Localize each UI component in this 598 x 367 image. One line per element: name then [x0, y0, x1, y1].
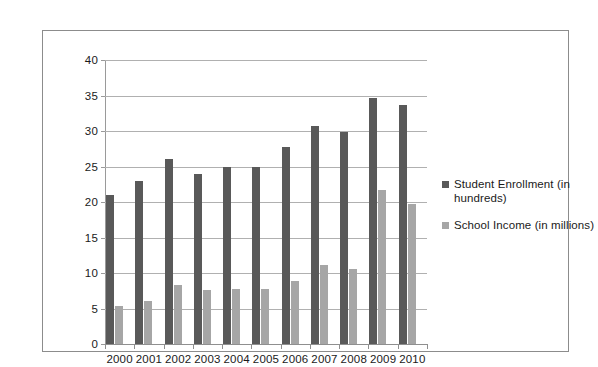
category-axis-tick [368, 344, 369, 349]
category-axis-tick [251, 344, 252, 349]
bar[interactable] [115, 306, 123, 344]
plot-area: 0510152025303540 [105, 60, 427, 344]
bar-group [134, 60, 163, 344]
bar[interactable] [349, 269, 357, 344]
category-axis-label: 2008 [341, 353, 367, 365]
bar-group [310, 60, 339, 344]
bar-group [368, 60, 397, 344]
bar[interactable] [232, 289, 240, 344]
bar[interactable] [135, 181, 143, 344]
bar[interactable] [369, 98, 377, 344]
chart-frame: 0510152025303540 20002001200220032004200… [42, 30, 569, 352]
bar[interactable] [282, 147, 290, 344]
chart-legend: Student Enrollment (in hundreds)School I… [442, 177, 598, 245]
category-axis-label: 2010 [399, 353, 425, 365]
category-axis-line: 2000200120022003200420052006200720082009… [105, 344, 427, 345]
category-axis-tick [281, 344, 282, 349]
bar[interactable] [408, 204, 416, 344]
value-axis-tick-label: 40 [85, 54, 98, 66]
legend-swatch-icon [442, 222, 449, 229]
legend-swatch-icon [442, 181, 449, 188]
category-axis-label: 2009 [370, 353, 396, 365]
bar-group [193, 60, 222, 344]
bar-group [281, 60, 310, 344]
value-axis-tick-label: 30 [85, 125, 98, 137]
bar[interactable] [165, 159, 173, 344]
value-axis-tick-label: 15 [85, 232, 98, 244]
bar[interactable] [399, 105, 407, 344]
bar[interactable] [223, 167, 231, 344]
bar-group [398, 60, 427, 344]
value-axis-tick-label: 0 [91, 338, 98, 350]
bar-group [105, 60, 134, 344]
legend-entry[interactable]: Student Enrollment (in hundreds) [442, 177, 598, 205]
category-axis-label: 2001 [136, 353, 162, 365]
bar[interactable] [311, 126, 319, 344]
value-axis-tick-label: 10 [85, 267, 98, 279]
bar-group [339, 60, 368, 344]
bar[interactable] [320, 265, 328, 344]
bar[interactable] [252, 167, 260, 344]
category-axis-label: 2007 [311, 353, 337, 365]
category-axis-tick [134, 344, 135, 349]
category-axis-tick [222, 344, 223, 349]
category-axis-label: 2005 [253, 353, 279, 365]
category-axis-tick [193, 344, 194, 349]
category-axis-tick [339, 344, 340, 349]
category-axis-label: 2000 [106, 353, 132, 365]
category-axis-tick [427, 344, 428, 349]
legend-label: Student Enrollment (in hundreds) [454, 177, 598, 205]
bar-group [251, 60, 280, 344]
category-axis-tick [105, 344, 106, 349]
bar[interactable] [194, 174, 202, 344]
category-axis-label: 2002 [165, 353, 191, 365]
category-axis-tick [398, 344, 399, 349]
category-axis-tick [310, 344, 311, 349]
category-axis-label: 2004 [224, 353, 250, 365]
legend-entry[interactable]: School Income (in millions) [442, 218, 598, 232]
bar[interactable] [340, 132, 348, 344]
bar-group [222, 60, 251, 344]
value-axis-tick-label: 5 [91, 303, 98, 315]
bar[interactable] [261, 289, 269, 344]
bar[interactable] [378, 190, 386, 344]
bars-layer [105, 60, 427, 344]
value-axis-tick-label: 25 [85, 161, 98, 173]
category-axis-label: 2003 [194, 353, 220, 365]
category-axis-label: 2006 [282, 353, 308, 365]
value-axis-tick-label: 20 [85, 196, 98, 208]
bar[interactable] [174, 285, 182, 344]
bar[interactable] [106, 195, 114, 344]
bar[interactable] [291, 281, 299, 344]
bar[interactable] [203, 290, 211, 344]
legend-label: School Income (in millions) [454, 218, 594, 232]
bar-group [164, 60, 193, 344]
value-axis-tick-label: 35 [85, 90, 98, 102]
bar[interactable] [144, 301, 152, 344]
category-axis-tick [164, 344, 165, 349]
